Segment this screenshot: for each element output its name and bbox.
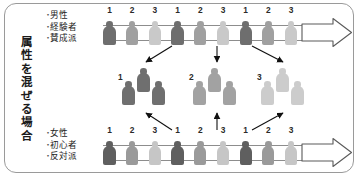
person-body (262, 26, 274, 45)
person-number-label: 2 (194, 125, 207, 135)
person-number-label: 2 (126, 125, 139, 135)
person-body (126, 146, 138, 165)
attribute-label: 男性 (50, 10, 68, 20)
person-number-label: 2 (262, 5, 275, 15)
person-figure (285, 21, 298, 45)
attribute-item: ・経験者 (44, 22, 77, 34)
person-number-label: 3 (217, 125, 230, 135)
person-body (171, 146, 183, 165)
person-figure (217, 141, 230, 165)
person-number-label: 1 (239, 125, 252, 135)
person-body (285, 26, 297, 45)
person-figure (262, 21, 275, 45)
person-body (103, 26, 115, 45)
person-body (103, 146, 115, 165)
person-number-label: 3 (148, 5, 161, 15)
flow-arrow-icon (301, 17, 353, 49)
person-figure (262, 141, 275, 165)
attribute-label: 初心者 (50, 140, 77, 150)
person-figure (126, 21, 139, 45)
person-body (276, 73, 288, 92)
person-figure (137, 68, 150, 92)
person-number-label: 2 (262, 125, 275, 135)
person-number-label: 2 (126, 5, 139, 15)
person-body (149, 146, 161, 165)
person-figure (223, 81, 236, 105)
caption-char: ぜ (14, 90, 38, 103)
person-number-label: 3 (148, 125, 161, 135)
person-figure (152, 81, 165, 105)
mixed-group-1: 1 (120, 68, 182, 114)
person-figure (126, 141, 139, 165)
person-body (126, 26, 138, 45)
person-number-label: 1 (171, 5, 184, 15)
attribute-label: 反対派 (50, 151, 77, 161)
person-figure (285, 141, 298, 165)
person-body (240, 26, 252, 45)
person-figure (103, 21, 116, 45)
attribute-label: 女性 (50, 128, 68, 138)
attribute-item: ・男性 (44, 10, 77, 22)
person-figure (217, 21, 230, 45)
person-body (285, 146, 297, 165)
person-body (240, 146, 252, 165)
caption-char: 属 (14, 36, 38, 49)
mixed-group-2: 2 (191, 68, 253, 114)
caption-char: 混 (14, 76, 38, 89)
attribute-item: ・女性 (44, 128, 77, 140)
person-number-label: 1 (103, 125, 116, 135)
person-number-label: 3 (285, 125, 298, 135)
person-body (208, 73, 220, 92)
mixed-group-3: 3 (259, 68, 321, 114)
person-body (194, 26, 206, 45)
attribute-item: ・初心者 (44, 140, 77, 152)
person-figure (103, 141, 116, 165)
person-row-top: 123123123 (103, 16, 351, 50)
person-body (122, 86, 134, 105)
person-body (194, 146, 206, 165)
person-body (262, 146, 274, 165)
attribute-label: 経験者 (50, 22, 77, 32)
person-figure (291, 81, 304, 105)
person-body (171, 26, 183, 45)
person-figure (148, 141, 161, 165)
caption-char: 場 (14, 116, 38, 129)
caption-char: る (14, 103, 38, 116)
person-body (149, 26, 161, 45)
person-figure (171, 21, 184, 45)
person-number-label: 1 (103, 5, 116, 15)
person-figure (194, 141, 207, 165)
flow-arrow-icon (301, 137, 353, 169)
person-body (152, 86, 164, 105)
person-body (261, 86, 273, 105)
person-figure (276, 68, 289, 92)
person-number-label: 2 (194, 5, 207, 15)
person-figure (261, 81, 274, 105)
person-number-label: 1 (171, 125, 184, 135)
person-body (137, 73, 149, 92)
vertical-caption: 属 性 を 混 ぜ る 場 合 (14, 36, 38, 144)
person-figure (122, 81, 135, 105)
person-figure (171, 141, 184, 165)
person-figure (194, 21, 207, 45)
person-body (223, 86, 235, 105)
person-body (193, 86, 205, 105)
person-number-label: 3 (285, 5, 298, 15)
person-number-label: 3 (217, 5, 230, 15)
diagram-canvas: 属 性 を 混 ぜ る 場 合 ・男性 ・経験者 ・賛成派 ・女性 ・初心者 ・… (0, 0, 359, 179)
attribute-item: ・賛成派 (44, 33, 77, 45)
person-figure (239, 141, 252, 165)
caption-char: 性 (14, 49, 38, 62)
person-figure (193, 81, 206, 105)
person-body (217, 146, 229, 165)
caption-char: を (14, 63, 38, 76)
person-figure (239, 21, 252, 45)
attribute-label: 賛成派 (50, 33, 77, 43)
caption-char: 合 (14, 130, 38, 143)
person-figure (148, 21, 161, 45)
attribute-item: ・反対派 (44, 151, 77, 163)
attribute-list-top: ・男性 ・経験者 ・賛成派 (44, 10, 77, 45)
person-figure (208, 68, 221, 92)
person-number-label: 1 (239, 5, 252, 15)
attribute-list-bottom: ・女性 ・初心者 ・反対派 (44, 128, 77, 163)
